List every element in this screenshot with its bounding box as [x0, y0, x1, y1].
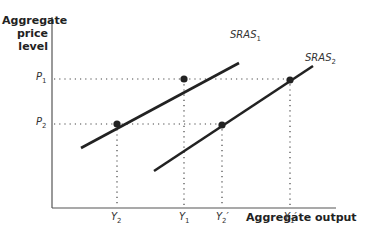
sras2-label: SRAS2 — [305, 52, 336, 66]
x-axis-title: Aggregate output — [246, 211, 357, 224]
y-axis-title: Aggregate price level — [2, 14, 48, 53]
sras1-curve — [81, 63, 239, 148]
tick-y1-prime: Y1′ — [284, 211, 297, 225]
point-y2p-p2 — [218, 121, 225, 128]
tick-y2-prime: Y2′ — [216, 211, 229, 225]
sras1-label: SRAS1 — [230, 29, 261, 43]
tick-p1-sub: 1 — [42, 77, 46, 85]
sras1-label-text: SRAS — [230, 29, 256, 40]
point-y1-p1 — [180, 75, 187, 82]
diagram-canvas — [0, 0, 392, 242]
y-axis-title-line1: Aggregate — [2, 14, 48, 27]
tick-p1: P1 — [36, 71, 47, 85]
sras2-label-sub: 2 — [331, 58, 335, 66]
y-axis-title-line2: price level — [2, 27, 48, 53]
tick-y1p-prime: ′ — [295, 211, 297, 222]
tick-y2-sub: 2 — [117, 217, 121, 225]
tick-y2: Y2 — [111, 211, 122, 225]
tick-p2: P2 — [36, 116, 47, 130]
sras2-label-text: SRAS — [305, 52, 331, 63]
sras1-label-sub: 1 — [256, 35, 260, 43]
point-y1p-p1 — [286, 76, 293, 83]
tick-p2-sub: 2 — [42, 122, 46, 130]
tick-y1-sub: 1 — [185, 217, 189, 225]
tick-y2p-prime: ′ — [227, 211, 229, 222]
point-y2-p2 — [113, 120, 120, 127]
tick-y1: Y1 — [179, 211, 190, 225]
